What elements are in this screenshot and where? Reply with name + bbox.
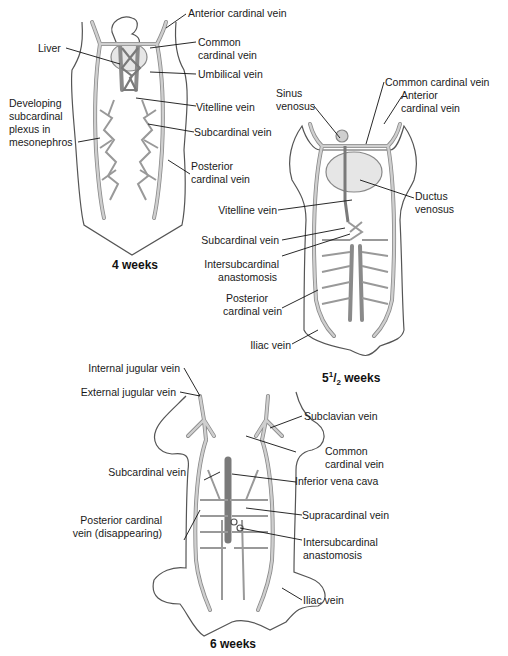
label-developing-plexus-line1: Developing bbox=[9, 97, 62, 110]
label-anterior-cardinal-vein-line1: Anterior bbox=[401, 89, 438, 102]
label-subcardinal-vein: Subcardinal vein bbox=[194, 126, 272, 139]
label-iliac-vein: Iliac vein bbox=[303, 594, 344, 607]
label-developing-plexus-line4: mesonephros bbox=[9, 136, 73, 149]
label-liver: Liver bbox=[38, 42, 61, 55]
label-common-cardinal-vein-line2: cardinal vein bbox=[198, 49, 257, 62]
label-intersubcardinal-anastomosis-line1: Intersubcardinal bbox=[204, 258, 279, 271]
label-common-cardinal-vein-line2: cardinal vein bbox=[325, 458, 384, 471]
label-intersubcardinal-anastomosis-line2: anastomosis bbox=[303, 549, 362, 562]
caption-4-weeks: 4 weeks bbox=[112, 258, 158, 272]
label-iliac-vein: Iliac vein bbox=[250, 339, 291, 352]
label-common-cardinal-vein: Common cardinal vein bbox=[385, 76, 489, 89]
label-developing-plexus-line3: plexus in bbox=[9, 123, 50, 136]
label-vitelline-vein: Vitelline vein bbox=[218, 204, 277, 217]
label-anterior-cardinal-vein: Anterior cardinal vein bbox=[188, 7, 287, 20]
label-umbilical-vein: Umbilical vein bbox=[198, 68, 263, 81]
label-posterior-cardinal-vein-line2: cardinal vein bbox=[223, 305, 282, 318]
label-posterior-cardinal-vein-line2: cardinal vein bbox=[191, 173, 250, 186]
label-posterior-cardinal-vein-line1: Posterior bbox=[226, 292, 268, 305]
label-ductus-venosus-line2: venosus bbox=[415, 203, 454, 216]
label-posterior-cardinal-vein-line1: Posterior cardinal bbox=[80, 514, 162, 527]
label-anterior-cardinal-vein-line2: cardinal vein bbox=[401, 102, 460, 115]
label-external-jugular-vein: External jugular vein bbox=[81, 386, 176, 399]
caption-5-and-a-half-weeks: 51/2 weeks bbox=[322, 370, 380, 387]
label-internal-jugular-vein: Internal jugular vein bbox=[88, 362, 180, 375]
label-common-cardinal-vein-line1: Common bbox=[198, 36, 241, 49]
label-vitelline-vein: Vitelline vein bbox=[196, 101, 255, 114]
label-sinus-venosus-line1: Sinus bbox=[276, 87, 302, 100]
embryo-outline-6wk bbox=[153, 392, 325, 636]
label-posterior-cardinal-vein-line1: Posterior bbox=[191, 160, 233, 173]
label-ductus-venosus-line1: Ductus bbox=[415, 190, 448, 203]
label-developing-plexus-line2: subcardinal bbox=[9, 110, 63, 123]
label-common-cardinal-vein-line1: Common bbox=[325, 445, 368, 458]
label-posterior-cardinal-vein-line2: vein (disappearing) bbox=[73, 527, 162, 540]
label-intersubcardinal-anastomosis-line2: anastomosis bbox=[218, 271, 277, 284]
label-inferior-vena-cava: Inferior vena cava bbox=[295, 475, 378, 488]
label-subcardinal-vein: Subcardinal vein bbox=[108, 466, 186, 479]
label-supracardinal-vein: Supracardinal vein bbox=[302, 509, 389, 522]
panel-6-weeks-embryo bbox=[153, 392, 325, 636]
label-subcardinal-vein: Subcardinal vein bbox=[201, 234, 279, 247]
label-sinus-venosus-line2: venosus bbox=[276, 100, 315, 113]
label-intersubcardinal-anastomosis-line1: Intersubcardinal bbox=[303, 536, 378, 549]
panel-5-5-weeks-embryo bbox=[290, 124, 417, 356]
label-subclavian-vein: Subclavian vein bbox=[304, 410, 378, 423]
liver-5wk bbox=[326, 152, 382, 192]
caption-6-weeks: 6 weeks bbox=[210, 637, 256, 651]
panel-4-weeks-embryo bbox=[71, 17, 187, 255]
